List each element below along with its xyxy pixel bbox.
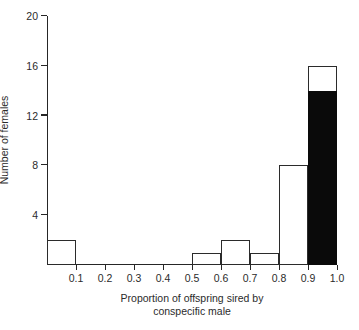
x-axis-title: Proportion of offspring sired by conspec… [47, 292, 337, 318]
x-axis-tick-label: 0.5 [185, 273, 200, 284]
plot-area: 20161284 0.10.20.30.40.50.60.70.80.91.0 [47, 16, 337, 265]
histogram-bar [308, 66, 337, 265]
x-axis-tick [192, 265, 193, 270]
histogram-figure: Number of females 20161284 0.10.20.30.40… [0, 0, 359, 330]
x-axis-tick [221, 265, 222, 270]
histogram-bar [221, 240, 250, 265]
y-axis-tick [41, 65, 47, 66]
x-axis-tick-label: 0.1 [69, 273, 84, 284]
y-axis-tick-label: 12 [26, 111, 38, 122]
y-axis-tick-label: 8 [32, 161, 38, 172]
x-axis-tick [163, 265, 164, 270]
x-axis-tick-label: 0.6 [214, 273, 229, 284]
x-axis-tick-label: 0.8 [272, 273, 287, 284]
x-axis-tick-label: 1.0 [330, 273, 345, 284]
y-axis-tick [41, 114, 47, 115]
x-axis-tick-label: 0.9 [301, 273, 316, 284]
y-axis-tick [41, 214, 47, 215]
x-axis-tick-label: 0.3 [127, 273, 142, 284]
x-axis-tick [76, 265, 77, 270]
histogram-bar [250, 253, 279, 265]
x-axis-title-line-1: Proportion of offspring sired by [47, 292, 337, 305]
x-axis-tick-label: 0.4 [156, 273, 171, 284]
x-axis-title-line-2: conspecific male [47, 305, 337, 318]
x-axis-tick [308, 265, 309, 270]
y-axis-line [47, 16, 48, 265]
y-axis-tick [41, 164, 47, 165]
y-axis-tick-label: 4 [32, 210, 38, 221]
histogram-bar [279, 165, 308, 265]
y-axis-tick-label: 20 [26, 11, 38, 22]
x-axis-tick [105, 265, 106, 270]
x-axis-tick [279, 265, 280, 270]
y-axis-title: Number of females [0, 96, 10, 185]
x-axis-tick-label: 0.7 [243, 273, 258, 284]
y-axis-tick [41, 15, 47, 16]
x-axis-tick [134, 265, 135, 270]
histogram-bar [192, 253, 221, 265]
histogram-bar [47, 240, 76, 265]
x-axis-tick [250, 265, 251, 270]
histogram-bar-filled-segment [308, 91, 337, 265]
x-axis-tick [337, 265, 338, 270]
x-axis-tick-label: 0.2 [98, 273, 113, 284]
y-axis-tick-label: 16 [26, 61, 38, 72]
